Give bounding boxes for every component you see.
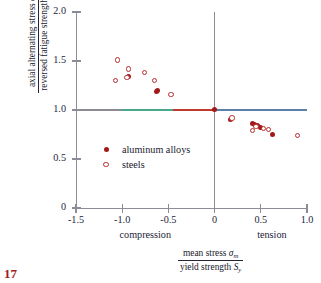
x-tick-label: 0: [195, 214, 235, 225]
horizontal-unity-line: [122, 109, 173, 110]
data-point[interactable]: [154, 89, 159, 94]
x-tick-label: -1.5: [56, 214, 96, 225]
filled-circle-icon: [100, 147, 112, 152]
data-point[interactable]: [168, 92, 173, 97]
x-tick-mark: [168, 204, 169, 213]
x-tick-label: 1.0: [287, 214, 321, 225]
x-tick-label: -1.0: [102, 214, 142, 225]
x-tick-mark: [260, 204, 261, 213]
legend-item-label: steels: [122, 159, 145, 170]
figure-number: 17: [4, 266, 17, 282]
zone-label-tension: tension: [227, 229, 317, 240]
x-axis-denominator: yield strength Sy: [178, 260, 243, 273]
figure-canvas: axial alternating stress σa reversed fat…: [0, 0, 321, 283]
x-tick-mark: [122, 204, 123, 213]
x-axis-fraction: mean stress σm yield strength Sy: [178, 248, 243, 273]
y-tick-label: 2.0: [40, 5, 66, 16]
y-tick-mark: [72, 60, 81, 61]
data-point[interactable]: [142, 70, 147, 75]
data-point[interactable]: [115, 57, 120, 62]
y-axis-numerator: axial alternating stress σa: [28, 0, 38, 89]
data-point[interactable]: [113, 78, 118, 83]
y-tick-label: 0.5: [40, 152, 66, 163]
x-tick-mark: [75, 204, 76, 213]
data-point[interactable]: [152, 78, 157, 83]
x-axis-line: [76, 208, 307, 209]
open-circle-icon: [100, 162, 112, 167]
legend-item-aluminum-alloys[interactable]: aluminum alloys: [100, 142, 190, 157]
horizontal-unity-line: [173, 109, 215, 110]
x-axis-title: mean stress σm yield strength Sy: [178, 248, 243, 273]
y-tick-label: 1.5: [40, 54, 66, 65]
y-tick-label: 0: [40, 201, 66, 212]
data-point[interactable]: [212, 107, 217, 112]
legend: aluminum alloys steels: [100, 142, 190, 172]
x-tick-mark: [306, 204, 307, 213]
legend-item-label: aluminum alloys: [122, 144, 190, 155]
legend-item-steels[interactable]: steels: [100, 157, 190, 172]
zone-label-compression: compression: [100, 229, 190, 240]
x-tick-label: -0.5: [148, 214, 188, 225]
data-point[interactable]: [295, 133, 300, 138]
y-tick-mark: [72, 11, 81, 12]
horizontal-unity-line: [76, 109, 122, 110]
x-axis-numerator: mean stress σm: [181, 248, 240, 260]
horizontal-unity-line: [215, 109, 307, 110]
y-tick-label: 1.0: [40, 103, 66, 114]
data-point[interactable]: [270, 132, 275, 137]
y-tick-mark: [72, 158, 81, 159]
x-tick-label: 0.5: [241, 214, 281, 225]
data-point[interactable]: [124, 75, 129, 80]
data-point[interactable]: [126, 66, 131, 71]
data-point[interactable]: [229, 115, 234, 120]
